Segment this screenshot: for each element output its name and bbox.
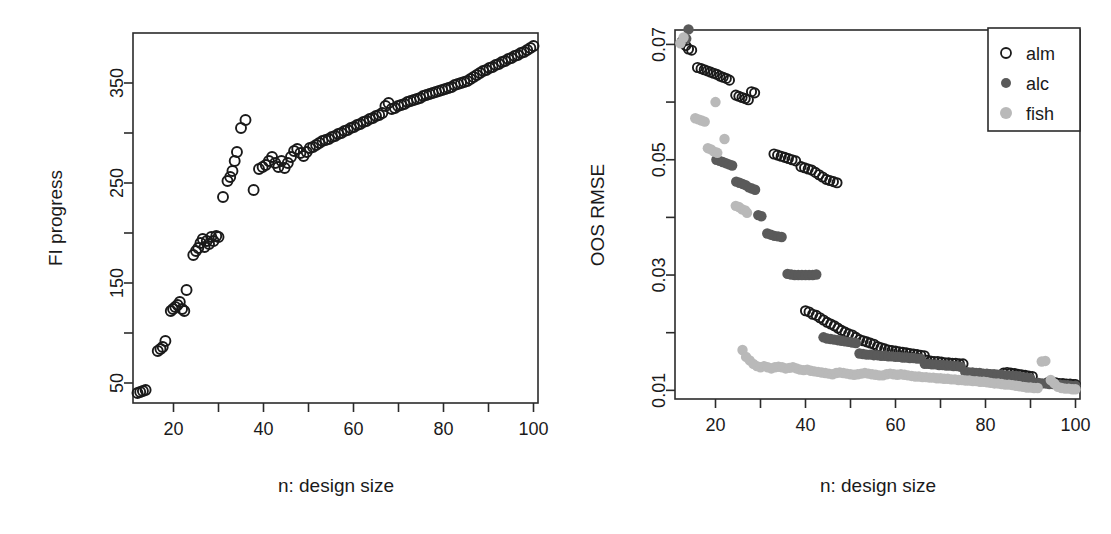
oos-rmse-plot: 204060801000.010.030.050.07 alm alc fish…	[556, 0, 1111, 534]
y-tick-label: 350	[107, 68, 127, 98]
y-tick-label: 150	[107, 268, 127, 298]
y-tick-label: 0.07	[649, 27, 669, 62]
data-point	[727, 160, 737, 170]
x-tick-label-20: 20	[705, 415, 725, 435]
data-point	[1070, 384, 1080, 394]
x-tick-label-80: 80	[433, 419, 453, 439]
y-tick-label: 250	[107, 168, 127, 198]
left-tick-labels: 2040608010050150250350	[107, 68, 549, 439]
legend-label-fish: fish	[1026, 104, 1054, 124]
figure-root: 2040608010050150250350 FI progress n: de…	[0, 0, 1111, 534]
data-point	[160, 336, 170, 346]
x-tick-label-40: 40	[253, 419, 273, 439]
data-point	[750, 185, 760, 195]
legend-label-alc: alc	[1026, 74, 1049, 94]
legend: alm alc fish	[988, 28, 1080, 131]
left-x-axis-title: n: design size	[278, 475, 394, 496]
legend-marker-filled-circle-dark-icon	[1001, 78, 1011, 88]
data-point	[241, 115, 251, 125]
x-tick-label-60: 60	[343, 419, 363, 439]
fi-progress-plot: 2040608010050150250350 FI progress n: de…	[0, 0, 556, 534]
y-tick-label: 0.01	[649, 373, 669, 408]
left-plot-frame	[133, 33, 538, 403]
x-tick-label-60: 60	[885, 415, 905, 435]
y-tick-label: 0.03	[649, 258, 669, 293]
data-point	[742, 208, 752, 218]
right-x-axis-title: n: design size	[820, 475, 936, 496]
data-point	[811, 269, 821, 279]
data-point	[719, 134, 729, 144]
legend-marker-filled-circle-light-icon	[1000, 107, 1012, 119]
x-tick-label-40: 40	[795, 415, 815, 435]
data-point	[756, 211, 766, 221]
series-FI progress	[133, 41, 539, 398]
data-point	[710, 97, 720, 107]
data-point	[227, 166, 237, 176]
legend-label-alm: alm	[1026, 44, 1055, 64]
right-y-axis-title: OOS RMSE	[587, 164, 608, 266]
y-tick-label: 0.05	[649, 142, 669, 177]
data-point	[776, 232, 786, 242]
data-point	[712, 148, 722, 158]
x-tick-label-20: 20	[163, 419, 183, 439]
fi-progress-panel: 2040608010050150250350 FI progress n: de…	[0, 0, 556, 534]
data-point	[249, 185, 259, 195]
y-tick-label: 50	[107, 373, 127, 393]
left-data-points	[133, 41, 539, 398]
left-y-axis-title: FI progress	[45, 170, 66, 266]
data-point	[1033, 383, 1043, 393]
data-point	[678, 32, 688, 42]
data-point	[851, 338, 861, 348]
x-tick-label-80: 80	[975, 415, 995, 435]
oos-rmse-panel: 204060801000.010.030.050.07 alm alc fish…	[556, 0, 1111, 534]
x-tick-label-100: 100	[518, 419, 548, 439]
x-tick-label-100: 100	[1060, 415, 1090, 435]
data-point	[700, 116, 710, 126]
data-point	[182, 285, 192, 295]
data-point	[1040, 356, 1050, 366]
data-point	[218, 192, 228, 202]
